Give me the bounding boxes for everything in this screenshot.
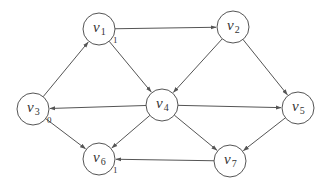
node-v4: v4: [146, 89, 178, 121]
edge-v3-v6: [46, 119, 86, 149]
node-v2: v2: [217, 11, 249, 43]
edge-v4-v3: [50, 105, 146, 108]
node-v3: v30: [17, 93, 52, 125]
edge-v1-v2: [115, 27, 216, 29]
graph-diagram: v11v2v30v4v5v61v7: [0, 0, 323, 187]
edge-v2-v4: [173, 39, 222, 93]
edge-v4-v6: [112, 115, 150, 148]
edge-v3-v1: [43, 42, 88, 97]
node-v7: v7: [214, 145, 246, 177]
node-tag: 1: [113, 165, 118, 175]
edge-v4-v7: [174, 115, 217, 150]
node-tag: 1: [113, 35, 118, 45]
edge-v1-v4: [109, 41, 151, 92]
edge-v5-v7: [243, 118, 285, 151]
node-tag: 0: [47, 115, 52, 125]
nodes: v11v2v30v4v5v61v7: [17, 11, 314, 177]
node-v5: v5: [282, 92, 314, 124]
node-v1: v11: [83, 13, 118, 45]
edge-v4-v5: [178, 105, 281, 107]
edge-v7-v6: [116, 159, 214, 160]
edge-v2-v5: [243, 39, 287, 94]
